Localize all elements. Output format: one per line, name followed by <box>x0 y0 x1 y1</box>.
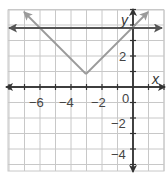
x-tick-label: −4 <box>59 95 74 110</box>
coordinate-plane: −6 −4 −2 0 2 −2 −4 y x <box>0 0 167 177</box>
y-tick-label: −2 <box>111 116 126 131</box>
x-tick-label: 0 <box>122 91 129 106</box>
y-axis-label: y <box>120 12 129 28</box>
x-tick-label: −6 <box>29 95 44 110</box>
y-tick-label: −4 <box>111 147 126 162</box>
y-tick-label: 2 <box>119 49 126 64</box>
x-axis-label: x <box>151 71 160 87</box>
grid <box>8 10 164 172</box>
x-tick-label: −2 <box>91 95 106 110</box>
